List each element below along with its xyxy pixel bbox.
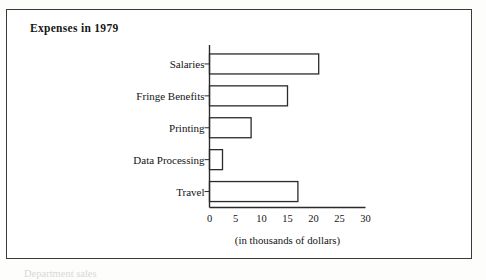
axis-caption: (in thousands of dollars) — [235, 234, 340, 246]
x-tick-label-0: 0 — [207, 213, 212, 224]
bar-salaries — [210, 54, 319, 74]
page-footer-partial-text: Department sales — [24, 268, 97, 279]
x-tick-label-10: 10 — [256, 213, 267, 224]
bar-chart-plot: SalariesFringe BenefitsPrintingData Proc… — [0, 0, 486, 280]
category-label-fringe-benefits: Fringe Benefits — [136, 90, 204, 102]
x-tick-label-25: 25 — [334, 213, 345, 224]
x-tick-label-20: 20 — [308, 213, 319, 224]
x-tick-label-30: 30 — [360, 213, 371, 224]
bar-fringe-benefits — [210, 86, 288, 106]
bar-travel — [210, 182, 298, 202]
category-label-travel: Travel — [176, 186, 204, 198]
bar-data-processing — [210, 150, 223, 170]
bar-printing — [210, 118, 252, 138]
category-label-printing: Printing — [169, 122, 204, 134]
figure-page: Expenses in 1979 SalariesFringe Benefits… — [0, 0, 486, 280]
x-tick-label-15: 15 — [282, 213, 293, 224]
x-tick-label-5: 5 — [233, 213, 238, 224]
category-label-data-processing: Data Processing — [133, 154, 204, 166]
category-label-salaries: Salaries — [170, 58, 205, 70]
